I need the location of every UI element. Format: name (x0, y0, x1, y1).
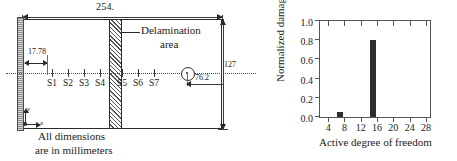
chart-x-tick-label: 24 (405, 122, 415, 133)
sensor-label-s6: S6 (133, 78, 143, 88)
chart-x-axis-title: Active degree of freedom (319, 136, 431, 148)
chart-x-tick-label: 8 (342, 122, 347, 133)
plate-centerline (6, 73, 256, 74)
chart-x-tick-top (393, 21, 394, 26)
chart-plot-area: 0.00.20.40.60.81.0481216202428 (319, 20, 431, 118)
units-note-line1: All dimensions (38, 130, 105, 142)
chart-x-tick-label: 16 (372, 122, 382, 133)
damage-force-bar-chart: Normalized damage force 0.00.20.40.60.81… (262, 0, 457, 161)
width-arrow-top-icon (220, 19, 226, 25)
sensor-tick-s1 (52, 69, 53, 77)
chart-x-tick-top (344, 21, 345, 26)
chart-x-tick-top (328, 21, 329, 26)
chart-x-tick-label: 28 (421, 122, 431, 133)
offset-arrow-left-icon (24, 60, 29, 66)
chart-y-tick-label: 0.8 (301, 36, 314, 47)
axis-x-label: x (40, 119, 43, 127)
delamination-label-line1: Delamination (141, 24, 201, 36)
axis-origin-marker-icon (23, 122, 27, 126)
width-extension-line-bottom (218, 129, 228, 130)
sensor-tick-s2 (68, 69, 69, 77)
sensor-tick-s3 (84, 69, 85, 77)
impact-point-marker (181, 67, 195, 81)
width-dimension-line (223, 19, 224, 129)
offset-dimension-label: 17.78 (28, 47, 46, 56)
chart-y-axis-title: Normalized damage force (274, 0, 286, 82)
overall-length-label: 254. (96, 1, 114, 12)
sensor-label-s5: S5 (117, 78, 127, 88)
delamination-area-band (109, 19, 122, 129)
chart-x-tick-label: 12 (356, 122, 366, 133)
sensor-label-s7: S7 (149, 78, 159, 88)
sensor-tick-s5 (122, 69, 123, 77)
sensor-label-s4: S4 (95, 78, 105, 88)
sensor-tick-s7 (154, 69, 155, 77)
delamination-leader-line (122, 32, 140, 33)
chart-x-tick-top (426, 21, 427, 26)
chart-x-tick-label: 20 (388, 122, 398, 133)
delamination-label-line2: area (160, 38, 178, 50)
sensor-label-s2: S2 (63, 78, 73, 88)
sensor-label-s3: S3 (79, 78, 89, 88)
chart-x-tick-top (377, 21, 378, 26)
chart-x-tick-top (361, 21, 362, 26)
chart-y-tick-label: 0.6 (301, 55, 314, 66)
width-label: 127 (224, 60, 236, 69)
chart-y-tick (315, 39, 320, 40)
chart-y-tick-label: 0.4 (301, 75, 314, 86)
chart-y-tick-label: 0.2 (301, 94, 314, 105)
sensor-tick-s6 (138, 69, 139, 77)
chart-y-tick-label: 1.0 (301, 17, 314, 28)
impact-distance-dimension-line (187, 84, 223, 85)
axis-y-label: y (27, 105, 30, 113)
impact-distance-arrow-left-icon (186, 81, 191, 87)
chart-bar (337, 112, 343, 117)
chart-y-tick-label: 0.0 (301, 113, 314, 124)
chart-y-tick (315, 78, 320, 79)
chart-x-tick-top (410, 21, 411, 26)
chart-y-tick (315, 58, 320, 59)
fixed-support-edge (17, 17, 24, 131)
units-note-line2: are in millimeters (35, 144, 113, 156)
chart-y-tick (315, 97, 320, 98)
offset-extension-line (47, 55, 48, 75)
sensor-tick-s4 (100, 69, 101, 77)
sensor-label-s1: S1 (47, 78, 57, 88)
plate-diagram: 254. Delamination area S1 S2 S3 S4 S5 S6… (0, 0, 262, 161)
chart-y-tick (315, 20, 320, 21)
chart-x-tick-label: 4 (326, 122, 331, 133)
chart-bar (370, 40, 376, 117)
impact-distance-label: 76.2 (195, 73, 209, 82)
chart-y-tick (315, 116, 320, 117)
overall-length-dimension-line (22, 17, 223, 18)
